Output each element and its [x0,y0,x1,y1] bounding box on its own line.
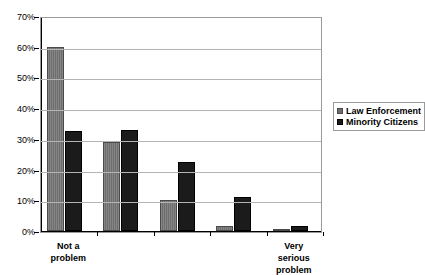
legend-swatch-icon [337,119,343,125]
bars-layer [41,18,321,232]
legend-swatch-icon [337,108,343,114]
gridline [41,172,321,173]
bar [47,47,64,231]
gridline [41,49,321,50]
y-tick-label: 10% [17,197,35,206]
x-axis-labels: Not a problemVery serious problem [40,240,322,274]
gridline [41,79,321,80]
gridline [41,202,321,203]
x-tick-mark [267,232,268,236]
bar [216,226,233,231]
y-tick-label: 30% [17,135,35,144]
y-axis: 0%10%20%30%40%50%60%70% [0,11,40,235]
bar [121,130,138,231]
x-axis-category-label: Very serious problem [276,240,312,275]
y-tick-mark [34,232,39,233]
y-tick-label: 40% [17,105,35,114]
y-tick-mark [34,201,39,202]
legend-item-law-enforcement: Law Enforcement [337,105,421,116]
y-tick-label: 60% [17,43,35,52]
gridline [41,141,321,142]
bar [65,131,82,231]
chart-legend: Law Enforcement Minority Citizens [333,102,425,131]
y-tick-label: 70% [17,13,35,22]
y-tick-mark [34,109,39,110]
y-tick-mark [34,48,39,49]
legend-item-minority-citizens: Minority Citizens [337,116,421,127]
y-tick-mark [34,171,39,172]
x-tick-mark [210,232,211,236]
y-tick-mark [34,17,39,18]
gridline [41,110,321,111]
bar [103,142,120,231]
y-tick-label: 20% [17,166,35,175]
plot-area [40,17,322,233]
y-tick-mark [34,140,39,141]
bar [291,226,308,231]
y-tick-mark [34,78,39,79]
legend-label: Minority Citizens [346,117,418,127]
bar [273,229,290,231]
legend-label: Law Enforcement [346,106,421,116]
x-tick-mark [154,232,155,236]
x-axis-category-label: Not a problem [50,240,86,264]
bar [160,200,177,231]
x-tick-mark [97,232,98,236]
x-tick-mark [323,232,324,236]
y-tick-label: 50% [17,74,35,83]
